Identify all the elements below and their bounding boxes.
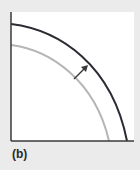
- plot-area: [11, 12, 134, 141]
- figure-label: (b): [12, 147, 27, 161]
- ppf-diagram: [0, 0, 140, 170]
